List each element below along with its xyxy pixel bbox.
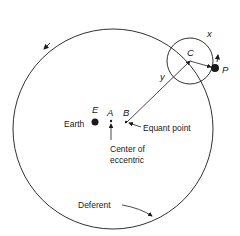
label-y: y	[159, 71, 166, 82]
label-earth: Earth	[64, 119, 85, 129]
label-a: A	[106, 107, 113, 118]
c-to-p-line	[190, 61, 211, 67]
earth-dot	[92, 119, 99, 126]
label-deferent: Deferent	[78, 200, 111, 210]
label-c: C	[187, 47, 194, 58]
label-eccentric: eccentric	[110, 155, 145, 165]
deferent-label-arrow	[122, 205, 152, 216]
center-of-eccentric-dot	[110, 120, 112, 122]
deferent-direction-arrow-icon	[44, 43, 50, 49]
label-equant-point: Equant point	[143, 123, 191, 133]
equant-to-c-line	[127, 61, 190, 122]
ptolemaic-diagram: x C P y E A B Earth Equant point Center …	[0, 0, 240, 236]
label-b: B	[123, 107, 130, 118]
equant-arrow	[129, 123, 141, 127]
label-x: x	[206, 28, 213, 39]
label-center-of: Center of	[110, 144, 146, 154]
equant-point-dot	[125, 121, 127, 123]
epicycle-direction-arrow-icon	[217, 55, 218, 62]
label-e: E	[92, 104, 99, 115]
planet-p-dot	[211, 64, 219, 72]
label-p: P	[222, 64, 229, 75]
